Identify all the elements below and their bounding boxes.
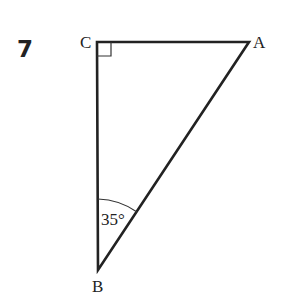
vertex-label-b: B (92, 277, 103, 296)
vertex-label-a: A (253, 33, 266, 52)
triangle-abc (97, 42, 249, 270)
angle-b-label: 35° (101, 210, 125, 229)
triangle-figure: C A B 35° (0, 0, 293, 307)
right-angle-marker (97, 42, 111, 56)
vertex-label-c: C (80, 33, 91, 52)
